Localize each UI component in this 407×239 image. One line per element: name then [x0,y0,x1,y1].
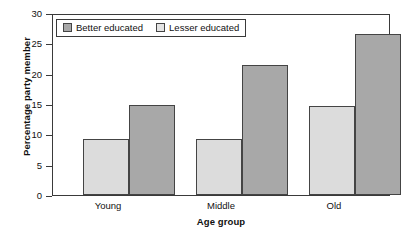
bar-old-lesser-educated [309,106,355,195]
x-tick-label-old: Old [304,200,364,211]
legend-swatch-lesser-educated-icon [156,23,165,32]
y-tick-mark-0 [46,196,52,197]
y-tick-label-30: 30 [0,8,42,19]
y-tick-label-20: 20 [0,69,42,80]
y-tick-label-25: 25 [0,38,42,49]
x-tick-label-middle: Middle [191,200,251,211]
bar-middle-better-educated [242,65,288,195]
legend-swatch-better-educated-icon [63,23,72,32]
bar-young-better-educated [129,105,175,195]
legend-label-better-educated: Better educated [76,22,143,33]
bar-young-lesser-educated [83,139,129,195]
y-tick-label-15: 15 [0,99,42,110]
x-axis-title: Age group [52,216,390,227]
plot-area [52,14,390,196]
legend-label-lesser-educated: Lesser educated [169,22,239,33]
bar-middle-lesser-educated [196,139,242,195]
y-tick-label-0: 0 [0,190,42,201]
y-tick-label-5: 5 [0,160,42,171]
y-tick-label-10: 10 [0,129,42,140]
chart-legend: Better educated Lesser educated [56,19,246,37]
bar-old-better-educated [355,34,401,195]
legend-entry-better-educated: Better educated [63,22,143,33]
legend-entry-lesser-educated: Lesser educated [156,22,239,33]
x-tick-label-young: Young [78,200,138,211]
bar-chart-figure: Percentage party member 30 25 20 15 10 5… [0,0,407,239]
